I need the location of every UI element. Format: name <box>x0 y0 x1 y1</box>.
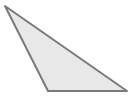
triangle-shape <box>5 6 127 91</box>
diagram-canvas <box>0 0 134 98</box>
